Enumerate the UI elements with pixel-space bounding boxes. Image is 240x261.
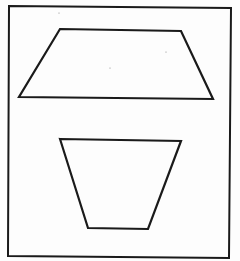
- background: [0, 0, 240, 261]
- speck: [109, 67, 110, 68]
- diagram-canvas: [0, 0, 240, 261]
- speck: [58, 12, 59, 13]
- speck: [165, 51, 166, 52]
- diagram-svg: [0, 0, 240, 261]
